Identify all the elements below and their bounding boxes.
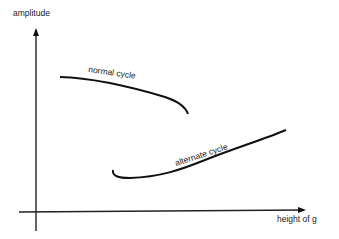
normal-cycle-curve (60, 77, 188, 114)
x-axis-label: height of g (277, 214, 317, 224)
y-axis-label: amplitude (13, 8, 50, 18)
normal-cycle-label: normal cycle (88, 64, 137, 81)
x-axis (19, 210, 304, 212)
amplitude-vs-height-diagram: amplitude height of g normal cycle alter… (0, 0, 339, 239)
